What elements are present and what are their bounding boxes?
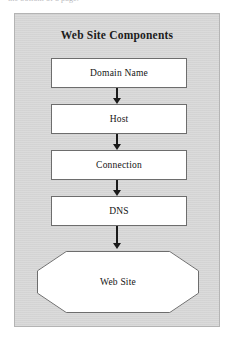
flow-node-host: Host (51, 104, 187, 134)
arrow-head-icon (113, 243, 121, 249)
flow-node-label: DNS (109, 206, 129, 216)
figure-panel: Web Site Components Domain Name Host Con… (14, 13, 220, 327)
flow-node-label: Domain Name (90, 68, 148, 78)
arrow-shaft (116, 134, 118, 144)
flow-node-label: Host (110, 114, 129, 124)
arrow-shaft (116, 88, 118, 98)
figure-title: Web Site Components (15, 29, 219, 41)
flow-node-dns: DNS (51, 196, 187, 226)
flow-node-connection: Connection (51, 150, 187, 180)
flow-node-label: Connection (96, 160, 142, 170)
arrow-shaft (116, 226, 118, 243)
flow-arrow-connection-to-dns (113, 180, 121, 196)
arrow-shaft (116, 180, 118, 190)
flow-arrow-host-to-connection (113, 134, 121, 150)
flow-node-web-site: Web Site (37, 251, 199, 313)
page-caption-fragment: the bottom of a page. (8, 0, 226, 3)
flow-node-domain-name: Domain Name (51, 58, 187, 88)
flow-arrow-domain-name-to-host (113, 88, 121, 104)
flow-node-label: Web Site (100, 277, 136, 287)
flow-arrow-dns-to-web-site (113, 226, 121, 251)
